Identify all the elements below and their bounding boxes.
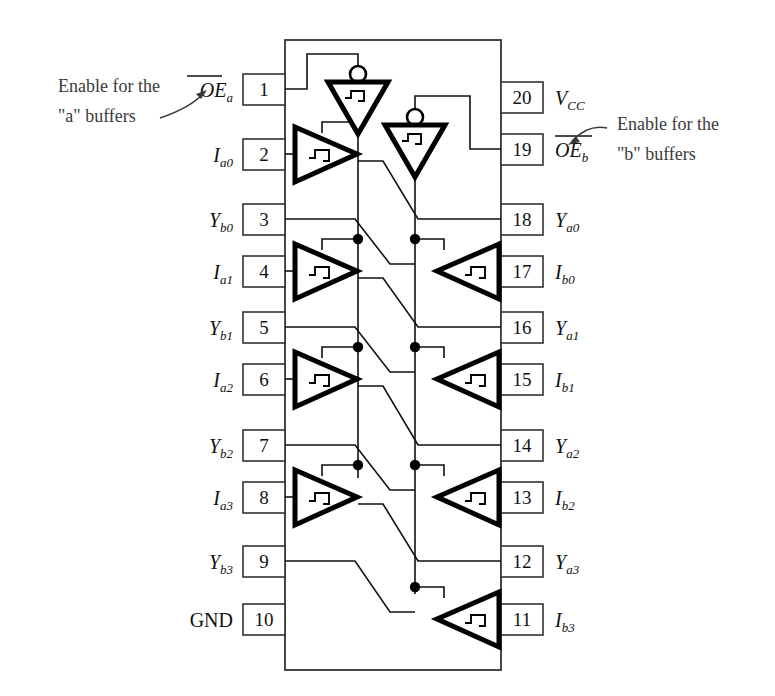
- pinout-diagram: 1 2 3 4 5 6 7 8: [0, 0, 775, 696]
- pin-number: 4: [259, 261, 269, 282]
- pin-box-16[interactable]: 16: [501, 312, 543, 343]
- pin-box-12[interactable]: 12: [501, 546, 543, 577]
- pin-number: 1: [259, 79, 269, 100]
- signal-label-ya3: Ya3: [555, 551, 580, 577]
- pin-number: 16: [513, 317, 532, 338]
- junction-dot: [353, 234, 363, 244]
- callout-right-line2: "b" buffers: [617, 144, 696, 164]
- signal-base: OE: [200, 79, 227, 101]
- pin-number: 12: [513, 551, 532, 572]
- pin-box-11[interactable]: 11: [501, 604, 543, 635]
- junction-dot: [410, 342, 420, 352]
- junction-dot: [410, 234, 420, 244]
- pin-number: 20: [513, 87, 532, 108]
- callout-left-line2: "a" buffers: [58, 106, 136, 126]
- signal-label-ib3: Ib3: [554, 609, 575, 635]
- signal-label-yb3: Yb3: [209, 551, 234, 577]
- pin-box-19[interactable]: 19: [501, 134, 543, 165]
- pin-box-14[interactable]: 14: [501, 430, 543, 461]
- pin-number: 15: [513, 369, 532, 390]
- signal-label-ib0: Ib0: [554, 261, 575, 287]
- signal-sub: a: [227, 90, 234, 105]
- pin-number: 18: [513, 209, 532, 230]
- figure-canvas: 1 2 3 4 5 6 7 8: [0, 0, 775, 696]
- callout-left-arrow: [160, 93, 204, 118]
- junction-dot: [410, 460, 420, 470]
- pin-box-7[interactable]: 7: [243, 430, 285, 461]
- junction-dot: [410, 582, 420, 592]
- pin-box-3[interactable]: 3: [243, 204, 285, 235]
- signal-label-ib1: Ib1: [554, 369, 575, 395]
- callout-left-line1: Enable for the: [58, 76, 160, 96]
- signal-label-ya2: Ya2: [555, 435, 580, 461]
- pin-box-5[interactable]: 5: [243, 312, 285, 343]
- pin-number: 5: [259, 317, 269, 338]
- signal-label-oe-a: OEa: [187, 76, 234, 105]
- pin-number: 17: [513, 261, 532, 282]
- left-pin-column: 1 2 3 4 5 6 7 8: [243, 74, 285, 635]
- pin-box-1[interactable]: 1: [243, 74, 285, 105]
- signal-label-ia1: Ia1: [212, 261, 233, 287]
- pin-box-13[interactable]: 13: [501, 482, 543, 513]
- pin-number: 6: [259, 369, 269, 390]
- pin-box-2[interactable]: 2: [243, 139, 285, 170]
- signal-label-yb1: Yb1: [209, 317, 233, 343]
- junction-dot: [353, 460, 363, 470]
- junction-dot: [353, 342, 363, 352]
- pin-number: 19: [513, 139, 532, 160]
- pin-box-6[interactable]: 6: [243, 364, 285, 395]
- pin-number: 3: [259, 209, 269, 230]
- pin-number: 14: [513, 435, 533, 456]
- callout-right: Enable for the "b" buffers: [568, 114, 719, 164]
- pin-box-9[interactable]: 9: [243, 546, 285, 577]
- signal-label-ia2: Ia2: [212, 369, 233, 395]
- pin-box-4[interactable]: 4: [243, 256, 285, 287]
- pin-number: 10: [255, 609, 274, 630]
- pin-number: 7: [259, 435, 269, 456]
- signal-label-yb2: Yb2: [209, 435, 234, 461]
- signal-label-gnd: GND: [190, 609, 233, 631]
- pin-box-18[interactable]: 18: [501, 204, 543, 235]
- pin-number: 13: [513, 487, 532, 508]
- signal-label-ya1: Ya1: [555, 317, 579, 343]
- pin-number: 9: [259, 551, 269, 572]
- pin-box-17[interactable]: 17: [501, 256, 543, 287]
- pin-number: 2: [259, 144, 269, 165]
- right-pin-column: 20 19 18 17 16 15 14 13: [501, 82, 543, 635]
- right-signal-labels: VCC OEb Ya0 Ib0 Ya1 Ib1 Ya2 Ib2 Ya3: [554, 87, 592, 635]
- callout-right-line1: Enable for the: [617, 114, 719, 134]
- left-signal-labels: OEa Ia0 Yb0 Ia1 Yb1 Ia2 Yb2 Ia3 Yb3 GND: [187, 76, 234, 631]
- pin-box-8[interactable]: 8: [243, 482, 285, 513]
- signal-label-ya0: Ya0: [555, 209, 580, 235]
- signal-label-yb0: Yb0: [209, 209, 234, 235]
- callout-left: Enable for the "a" buffers: [58, 76, 207, 126]
- pin-number: 8: [259, 487, 269, 508]
- signal-label-ia3: Ia3: [212, 487, 233, 513]
- pin-box-20[interactable]: 20: [501, 82, 543, 113]
- signal-label-ib2: Ib2: [554, 487, 575, 513]
- pin-box-10[interactable]: 10: [243, 604, 285, 635]
- signal-label-ia0: Ia0: [212, 144, 233, 170]
- pin-number: 11: [513, 609, 531, 630]
- signal-label-vcc: VCC: [555, 87, 585, 113]
- pin-box-15[interactable]: 15: [501, 364, 543, 395]
